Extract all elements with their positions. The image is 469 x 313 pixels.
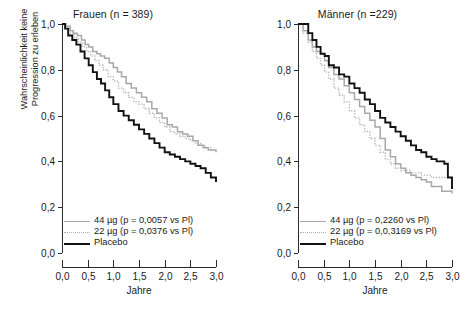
svg-text:0,0: 0,0 bbox=[277, 248, 291, 259]
svg-text:2,5: 2,5 bbox=[184, 271, 198, 282]
legend-item-placebo: Placebo bbox=[64, 237, 193, 248]
svg-text:1,0: 1,0 bbox=[41, 19, 55, 30]
svg-text:0,8: 0,8 bbox=[277, 65, 291, 76]
legend-label-placebo: Placebo bbox=[94, 237, 128, 248]
svg-text:0,0: 0,0 bbox=[56, 271, 70, 282]
legend-maenner: 44 µg (p = 0,2260 vs Pl) 22 µg (p = 0,0,… bbox=[300, 215, 437, 249]
svg-text:2,5: 2,5 bbox=[420, 271, 434, 282]
svg-text:0,8: 0,8 bbox=[41, 65, 55, 76]
legend-item-22ug: 22 µg (p = 0,0,3169 vs Pl) bbox=[300, 226, 437, 237]
svg-text:0,4: 0,4 bbox=[277, 156, 291, 167]
legend-frauen: 44 µg (p = 0,0057 vs Pl) 22 µg (p = 0,03… bbox=[64, 215, 193, 249]
svg-text:Jahre: Jahre bbox=[126, 285, 151, 296]
legend-label-22ug: 22 µg (p = 0,0,3169 vs Pl) bbox=[330, 226, 437, 237]
svg-text:1,0: 1,0 bbox=[107, 271, 121, 282]
curve-dose44 bbox=[62, 24, 216, 152]
svg-text:0,5: 0,5 bbox=[82, 271, 96, 282]
svg-text:0,0: 0,0 bbox=[41, 248, 55, 259]
svg-text:1,0: 1,0 bbox=[343, 271, 357, 282]
svg-text:0,2: 0,2 bbox=[277, 202, 291, 213]
svg-text:1,0: 1,0 bbox=[277, 19, 291, 30]
legend-item-44ug: 44 µg (p = 0,0057 vs Pl) bbox=[64, 215, 193, 226]
svg-text:2,0: 2,0 bbox=[159, 271, 173, 282]
curve-placebo bbox=[298, 24, 452, 189]
legend-label-placebo: Placebo bbox=[330, 237, 364, 248]
curve-placebo bbox=[62, 24, 216, 182]
legend-swatch-placebo-icon bbox=[300, 238, 326, 247]
panel-maenner: Männer (n =229) 0,00,20,40,60,81,00,00,5… bbox=[234, 0, 469, 313]
svg-text:0,0: 0,0 bbox=[292, 271, 306, 282]
svg-text:0,2: 0,2 bbox=[41, 202, 55, 213]
svg-text:1,5: 1,5 bbox=[369, 271, 383, 282]
legend-swatch-22ug-icon bbox=[64, 227, 90, 236]
panel-frauen: Frauen (n = 389) Wahrscheinlichkeit kein… bbox=[0, 0, 234, 313]
svg-text:Jahre: Jahre bbox=[362, 285, 387, 296]
svg-text:1,5: 1,5 bbox=[133, 271, 147, 282]
legend-swatch-44ug-icon bbox=[300, 216, 326, 225]
svg-text:0,5: 0,5 bbox=[318, 271, 332, 282]
legend-swatch-22ug-icon bbox=[300, 227, 326, 236]
svg-text:0,6: 0,6 bbox=[277, 111, 291, 122]
plot-area-maenner: 0,00,20,40,60,81,00,00,51,01,52,02,53,0J… bbox=[234, 0, 469, 313]
legend-label-44ug: 44 µg (p = 0,2260 vs Pl) bbox=[330, 215, 429, 226]
legend-item-22ug: 22 µg (p = 0,0376 vs Pl) bbox=[64, 226, 193, 237]
legend-item-44ug: 44 µg (p = 0,2260 vs Pl) bbox=[300, 215, 437, 226]
svg-text:0,6: 0,6 bbox=[41, 111, 55, 122]
svg-text:3,0: 3,0 bbox=[210, 271, 224, 282]
kaplan-meier-figure: Frauen (n = 389) Wahrscheinlichkeit kein… bbox=[0, 0, 469, 313]
svg-text:0,4: 0,4 bbox=[41, 156, 55, 167]
svg-text:2,0: 2,0 bbox=[395, 271, 409, 282]
legend-swatch-placebo-icon bbox=[64, 238, 90, 247]
legend-swatch-44ug-icon bbox=[64, 216, 90, 225]
legend-item-placebo: Placebo bbox=[300, 237, 437, 248]
svg-text:3,0: 3,0 bbox=[446, 271, 460, 282]
legend-label-44ug: 44 µg (p = 0,0057 vs Pl) bbox=[94, 215, 193, 226]
legend-label-22ug: 22 µg (p = 0,0376 vs Pl) bbox=[94, 226, 193, 237]
plot-area-frauen: 0,00,20,40,60,81,00,00,51,01,52,02,53,0J… bbox=[0, 0, 234, 313]
